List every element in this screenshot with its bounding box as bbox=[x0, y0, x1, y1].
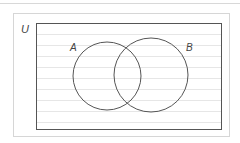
universe-rectangle bbox=[37, 24, 222, 130]
set-b-label: B bbox=[186, 43, 193, 53]
set-a-circle bbox=[73, 42, 141, 110]
ruled-lines bbox=[37, 35, 221, 123]
venn-diagram bbox=[0, 0, 240, 143]
universe-label: U bbox=[21, 24, 29, 35]
set-a-label: A bbox=[70, 43, 77, 53]
